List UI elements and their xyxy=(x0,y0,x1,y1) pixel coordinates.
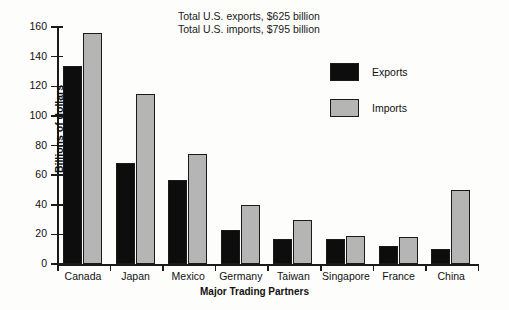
bar-france-imports xyxy=(399,237,418,264)
y-axis-title: Billions of dollars xyxy=(53,85,65,173)
y-tick-label-140: 140 xyxy=(13,50,47,62)
y-tick-140 xyxy=(51,56,63,58)
y-tick-60 xyxy=(51,174,63,176)
bar-china-exports xyxy=(431,249,450,264)
bar-singapore-imports xyxy=(346,236,365,264)
y-tick-label-20: 20 xyxy=(13,227,47,239)
bar-japan-exports xyxy=(116,163,135,264)
bar-japan-imports xyxy=(136,94,155,264)
bar-mexico-imports xyxy=(188,154,207,264)
y-tick-40 xyxy=(51,204,63,206)
bar-group-mexico xyxy=(168,27,208,264)
bar-group-taiwan xyxy=(273,27,313,264)
y-tick-label-80: 80 xyxy=(13,139,47,151)
bar-group-germany xyxy=(221,27,261,264)
bar-group-france xyxy=(379,27,419,264)
y-tick-label-120: 120 xyxy=(13,79,47,91)
y-tick-20 xyxy=(51,234,63,236)
bar-france-exports xyxy=(379,246,398,264)
bar-taiwan-exports xyxy=(273,239,292,264)
bar-germany-imports xyxy=(241,205,260,264)
annotation-exports-total: Total U.S. exports, $625 billion xyxy=(178,10,320,23)
bar-chart: Total U.S. exports, $625 billion Total U… xyxy=(0,0,509,310)
bar-mexico-exports xyxy=(168,180,187,264)
bar-canada-exports xyxy=(63,66,82,264)
plot-area: 020406080100120140160 CanadaJapanMexicoG… xyxy=(57,27,478,264)
bar-singapore-exports xyxy=(326,239,345,264)
x-axis-title: Major Trading Partners xyxy=(0,286,509,297)
y-tick-label-0: 0 xyxy=(13,257,47,269)
y-tick-label-100: 100 xyxy=(13,109,47,121)
bar-canada-imports xyxy=(83,33,102,264)
bar-taiwan-imports xyxy=(293,220,312,264)
category-label-china: China xyxy=(418,270,484,282)
bar-group-singapore xyxy=(326,27,366,264)
y-tick-label-160: 160 xyxy=(13,20,47,32)
bar-group-japan xyxy=(116,27,156,264)
y-tick-label-60: 60 xyxy=(13,168,47,180)
bar-germany-exports xyxy=(221,230,240,264)
bar-group-canada xyxy=(63,27,103,264)
bar-group-china xyxy=(431,27,471,264)
y-tick-160 xyxy=(51,26,63,28)
bar-china-imports xyxy=(451,190,470,264)
y-tick-label-40: 40 xyxy=(13,198,47,210)
